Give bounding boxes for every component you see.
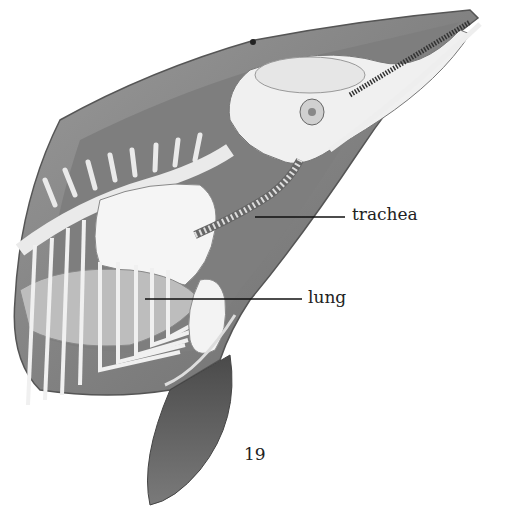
blowhole bbox=[250, 39, 256, 45]
dolphin-anatomy-illustration bbox=[0, 0, 514, 507]
eye bbox=[308, 108, 316, 116]
page-number: 19 bbox=[244, 444, 266, 464]
trachea-label: trachea bbox=[352, 204, 418, 224]
melon bbox=[255, 57, 365, 93]
lung-label: lung bbox=[308, 287, 346, 307]
